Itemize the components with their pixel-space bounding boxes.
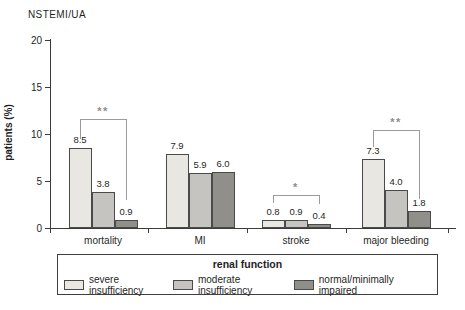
legend-title: renal function <box>58 258 437 270</box>
legend-swatch-icon <box>294 280 314 290</box>
y-axis-tick-label: 20 <box>22 35 42 46</box>
legend-item-label: moderate insufficiency <box>198 274 294 296</box>
y-axis-tick <box>45 134 50 135</box>
bar-value-label: 0.4 <box>303 210 335 222</box>
y-axis-tick <box>45 40 50 41</box>
x-axis-tick <box>50 228 51 233</box>
bar-value-label: 3.8 <box>87 178 119 190</box>
x-axis-line <box>50 228 456 229</box>
y-axis-tick <box>45 87 50 88</box>
category-label-mortality: mortality <box>58 235 148 246</box>
y-axis-label: patients (%) <box>3 73 14 193</box>
y-axis-tick-label: 10 <box>22 129 42 140</box>
bar-value-label: 0.9 <box>110 206 142 218</box>
bar-severe-insufficiency-major-bleeding <box>362 159 385 228</box>
nstemi-ua-bar-chart: NSTEMI/UA patients (%) 8.53.80.9mortalit… <box>0 0 465 310</box>
bar-value-label: 7.9 <box>161 140 193 152</box>
legend-item-moderate-insufficiency: moderate insufficiency <box>173 274 294 296</box>
significance-label: ** <box>89 105 117 117</box>
bar-moderate-insufficiency-major-bleeding <box>385 190 408 228</box>
legend-item-label: severe insufficiency <box>89 274 173 296</box>
y-axis-line <box>50 39 51 229</box>
chart-title: NSTEMI/UA <box>28 9 86 20</box>
bar-value-label: 6.0 <box>207 158 239 170</box>
significance-bracket-left <box>373 130 374 147</box>
significance-bracket-right <box>319 195 320 204</box>
legend-box: renal function severe insufficiencymoder… <box>57 254 438 295</box>
significance-bracket-top <box>273 195 320 196</box>
legend-item-normal-minimally-impaired: normal/minimally impaired <box>294 274 431 296</box>
y-axis-tick-label: 15 <box>22 82 42 93</box>
legend-swatch-icon <box>64 280 84 290</box>
y-axis-tick-label: 5 <box>22 176 42 187</box>
legend-row: severe insufficiencymoderate insufficien… <box>58 270 437 296</box>
legend-item-severe-insufficiency: severe insufficiency <box>64 274 173 296</box>
x-axis-tick <box>148 228 149 233</box>
bar-normal-minimally-impaired-MI <box>212 172 235 228</box>
category-label-MI: MI <box>155 235 245 246</box>
category-label-stroke: stroke <box>251 235 341 246</box>
category-label-major-bleeding: major bleeding <box>351 235 441 246</box>
bar-normal-minimally-impaired-stroke <box>308 224 331 228</box>
y-axis-tick-label: 0 <box>22 223 42 234</box>
bar-normal-minimally-impaired-major-bleeding <box>408 211 431 228</box>
y-axis-tick <box>45 181 50 182</box>
significance-bracket-top <box>373 130 420 131</box>
bar-normal-minimally-impaired-mortality <box>115 220 138 228</box>
legend-swatch-icon <box>173 280 193 290</box>
x-axis-tick <box>247 228 248 233</box>
legend-item-label: normal/minimally impaired <box>319 274 431 296</box>
x-axis-tick <box>448 228 449 233</box>
bar-value-label: 4.0 <box>380 176 412 188</box>
significance-label: * <box>282 181 310 193</box>
significance-bracket-left <box>273 195 274 203</box>
significance-bracket-right <box>126 119 127 200</box>
bar-severe-insufficiency-stroke <box>262 220 285 228</box>
significance-bracket-left <box>80 119 81 139</box>
significance-bracket-right <box>419 130 420 199</box>
significance-bracket-top <box>80 119 127 120</box>
significance-label: ** <box>382 116 410 128</box>
x-axis-tick <box>346 228 347 233</box>
bar-moderate-insufficiency-MI <box>189 173 212 228</box>
